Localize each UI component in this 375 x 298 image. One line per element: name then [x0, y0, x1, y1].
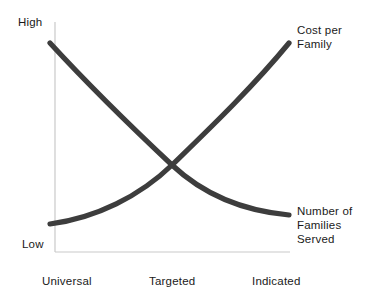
series-label-cost-per-family-line1: Cost per	[297, 24, 342, 36]
x-axis-tick-targeted: Targeted	[149, 275, 195, 287]
series-label-number-of-families-served-line2: Families	[297, 219, 341, 231]
y-axis-tick-high: High	[18, 16, 42, 28]
x-axis-tick-indicated: Indicated	[252, 275, 300, 287]
y-axis-tick-low: Low	[22, 238, 44, 250]
series-label-number-of-families-served-line3: Served	[297, 233, 335, 245]
series-label-cost-per-family-line2: Family	[297, 38, 332, 50]
chart-container: High Low Universal Targeted Indicated Co…	[0, 0, 375, 298]
series-label-number-of-families-served-line1: Number of	[297, 205, 353, 217]
series-line-cost-per-family	[50, 43, 289, 224]
series-line-number-of-families-served	[50, 43, 289, 215]
x-axis-tick-universal: Universal	[42, 275, 92, 287]
